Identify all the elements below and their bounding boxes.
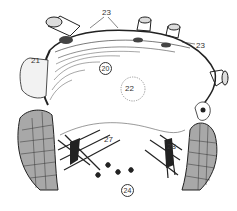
- label-23-top: 23: [102, 9, 111, 17]
- pulmonary-vein-stumps: [46, 16, 228, 86]
- label-27: 27: [104, 136, 113, 144]
- label-22: 22: [125, 85, 134, 93]
- label-21: 21: [31, 57, 40, 65]
- label-20-circled: 20: [99, 62, 112, 75]
- right-myocardium: [182, 123, 217, 190]
- mitral-leaflet: [60, 123, 185, 135]
- heart-chamber-illustration: [0, 0, 237, 211]
- label-28: 28: [167, 143, 176, 151]
- label-24-circled: 24: [121, 184, 134, 197]
- label-23-right: 23: [196, 42, 205, 50]
